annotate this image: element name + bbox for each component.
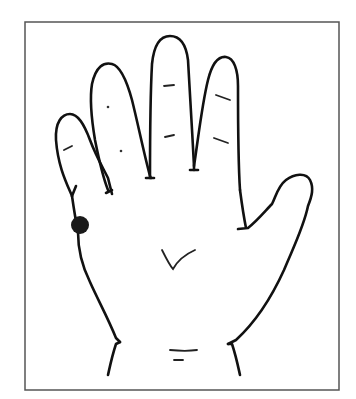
hand-drawing xyxy=(0,0,356,399)
middle-finger-crease-upper xyxy=(164,85,174,86)
marker-dot xyxy=(71,216,89,234)
wrist-crease-1 xyxy=(170,350,197,351)
ring-finger-dot-lower xyxy=(120,150,123,153)
ring-finger-dot-upper xyxy=(107,106,110,109)
figure-border xyxy=(25,22,339,390)
hand-diagram xyxy=(0,0,356,399)
